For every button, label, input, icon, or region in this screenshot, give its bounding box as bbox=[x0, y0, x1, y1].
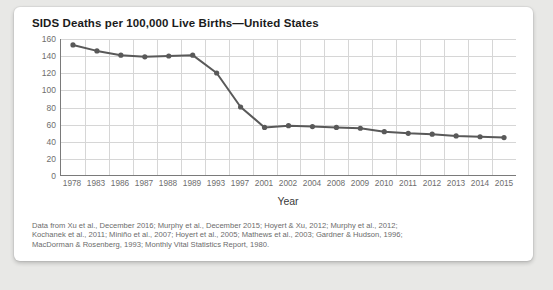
x-axis-tick: 2011 bbox=[399, 178, 417, 188]
x-axis-tick: 2014 bbox=[471, 178, 489, 188]
x-axis-tick: 1986 bbox=[111, 178, 129, 188]
y-axis-tick: 60 bbox=[47, 120, 56, 130]
x-axis-tick: 1983 bbox=[87, 178, 105, 188]
data-point-marker bbox=[477, 134, 482, 139]
x-axis-labels: 1978198319861987198819891993199720012002… bbox=[60, 178, 516, 192]
x-axis-tick: 1989 bbox=[183, 178, 201, 188]
data-point-marker bbox=[262, 125, 267, 130]
x-axis-tick: 2012 bbox=[423, 178, 441, 188]
data-point-marker bbox=[406, 131, 411, 136]
data-point-marker bbox=[118, 53, 123, 58]
chart-title: SIDS Deaths per 100,000 Live Births—Unit… bbox=[32, 17, 319, 29]
y-axis-tick: 80 bbox=[47, 103, 56, 113]
data-point-marker bbox=[238, 104, 243, 109]
x-axis-tick: 2008 bbox=[327, 178, 345, 188]
y-axis-tick: 0 bbox=[51, 171, 56, 181]
data-point-marker bbox=[190, 53, 195, 58]
data-point-marker bbox=[430, 132, 435, 137]
data-point-marker bbox=[334, 125, 339, 130]
x-axis-tick: 1988 bbox=[159, 178, 177, 188]
data-series-sids bbox=[61, 39, 516, 175]
y-axis-labels: 020406080100120140160 bbox=[32, 39, 56, 176]
x-axis-tick: 2015 bbox=[495, 178, 513, 188]
data-point-marker bbox=[286, 123, 291, 128]
y-axis-tick: 20 bbox=[47, 154, 56, 164]
x-axis-tick: 1997 bbox=[231, 178, 249, 188]
y-axis-tick: 160 bbox=[42, 34, 56, 44]
data-point-marker bbox=[166, 53, 171, 58]
x-axis-title: Year bbox=[60, 195, 516, 207]
x-axis-tick: 2013 bbox=[447, 178, 465, 188]
y-axis-tick: 120 bbox=[42, 68, 56, 78]
data-point-marker bbox=[214, 70, 219, 75]
x-axis-tick: 2009 bbox=[351, 178, 369, 188]
data-point-marker bbox=[94, 48, 99, 53]
plot-canvas bbox=[60, 39, 516, 176]
x-axis-tick: 2002 bbox=[279, 178, 297, 188]
x-axis-tick: 1978 bbox=[63, 178, 81, 188]
data-point-marker bbox=[310, 124, 315, 129]
x-axis-tick: 2010 bbox=[375, 178, 393, 188]
x-axis-tick: 2001 bbox=[255, 178, 273, 188]
x-axis-tick: 1993 bbox=[207, 178, 225, 188]
data-point-marker bbox=[454, 133, 459, 138]
plot-area: 020406080100120140160 197819831986198719… bbox=[32, 39, 516, 189]
data-point-marker bbox=[501, 135, 506, 140]
chart-card: SIDS Deaths per 100,000 Live Births—Unit… bbox=[14, 7, 533, 261]
y-axis-tick: 100 bbox=[42, 85, 56, 95]
caption-line-2: Kochanek et al., 2011; Miniño et al., 20… bbox=[32, 230, 502, 239]
y-axis-tick: 40 bbox=[47, 137, 56, 147]
x-axis-tick: 2004 bbox=[303, 178, 321, 188]
data-point-marker bbox=[382, 129, 387, 134]
source-caption: Data from Xu et al., December 2016; Murp… bbox=[32, 221, 502, 249]
y-axis-tick: 140 bbox=[42, 51, 56, 61]
data-point-marker bbox=[142, 54, 147, 59]
x-axis-tick: 1987 bbox=[135, 178, 153, 188]
data-point-marker bbox=[358, 126, 363, 131]
data-point-marker bbox=[70, 42, 75, 47]
caption-line-3: MacDorman & Rosenberg, 1993; Monthly Vit… bbox=[32, 240, 502, 249]
caption-line-1: Data from Xu et al., December 2016; Murp… bbox=[32, 221, 502, 230]
